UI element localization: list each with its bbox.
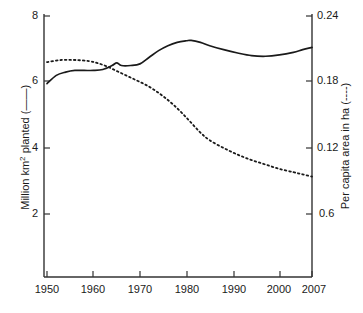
left-axis-title-main: Million km: [19, 161, 31, 210]
left-tick-label-8: 8: [16, 10, 38, 21]
x-tick-label-1960: 1960: [73, 284, 113, 295]
left-axis-title-tail: planted (——): [19, 85, 31, 157]
chart-figure: 8 6 4 2 0.24 0.18 0.12 0.6 1950 1960 197…: [0, 0, 363, 313]
x-tick-label-2007: 2007: [294, 284, 334, 295]
x-tick-label-1950: 1950: [27, 284, 67, 295]
left-axis-title-superscript: 2: [18, 156, 27, 160]
x-tick-label-1990: 1990: [214, 284, 254, 295]
right-axis-ticks: [306, 16, 312, 214]
left-axis-ticks: [44, 16, 50, 214]
series-line-per-capita-area: [47, 60, 312, 177]
x-tick-label-1980: 1980: [167, 284, 207, 295]
right-axis-title: Per capita area in ha (----): [339, 56, 351, 236]
series-line-million-km2-planted: [47, 40, 312, 83]
chart-plot-area: [0, 0, 363, 313]
x-axis-ticks: [47, 271, 312, 277]
left-axis-title: Million km2 planted (——): [17, 57, 32, 237]
x-tick-label-2000: 2000: [259, 284, 299, 295]
x-tick-label-1970: 1970: [120, 284, 160, 295]
right-tick-label-024: 0.24: [317, 10, 347, 21]
